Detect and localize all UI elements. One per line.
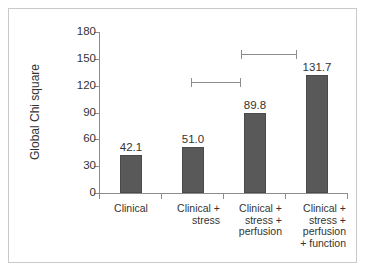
x-category-label-1-line-0: Clinical + (158, 203, 220, 215)
bracket-cap-right (296, 50, 297, 59)
x-tick-2 (223, 194, 224, 199)
y-tick-label-0: 0 (50, 187, 96, 198)
x-category-label-3: Clinical + stress + perfusion + function (282, 203, 346, 249)
y-tick-label-90: 90 (50, 107, 96, 118)
significance-bracket-lower (191, 78, 241, 87)
bracket-line (241, 54, 297, 55)
x-category-label-0: Clinical (100, 203, 162, 215)
x-tick-0 (99, 194, 100, 199)
x-tick-4 (347, 194, 348, 199)
bar-clinical (120, 155, 142, 193)
x-category-label-0-line-0: Clinical (100, 203, 162, 215)
y-tick-label-120: 120 (50, 80, 96, 91)
y-tick-label-150: 150 (50, 53, 96, 64)
x-category-label-2-line-0: Clinical + (220, 203, 282, 215)
y-tick-label-30: 30 (50, 160, 96, 171)
x-category-label-3-line-2: perfusion (282, 226, 346, 238)
x-category-label-2-line-2: perfusion (220, 226, 282, 238)
x-tick-1 (161, 194, 162, 199)
bracket-line (191, 82, 241, 83)
x-category-label-1-line-1: stress (158, 215, 220, 227)
bar-clinical-stress (182, 147, 204, 193)
bar-value-clinical-stress-perfusion: 89.8 (232, 99, 278, 111)
y-tick-label-180: 180 (50, 26, 96, 37)
bracket-cap-right (240, 78, 241, 87)
plot-area: Global Chi square 0 30 60 90 120 150 180… (0, 0, 368, 274)
x-tick-3 (285, 194, 286, 199)
y-axis-line (99, 32, 100, 194)
bar-clinical-stress-perfusion (244, 113, 266, 193)
chart-figure: Global Chi square 0 30 60 90 120 150 180… (0, 0, 368, 274)
x-category-label-1: Clinical + stress (158, 203, 220, 226)
y-tick-label-60: 60 (50, 133, 96, 144)
bar-value-clinical-stress-perfusion-function: 131.7 (292, 61, 342, 73)
bar-clinical-stress-perfusion-function (306, 75, 328, 193)
y-axis-title: Global Chi square (28, 52, 42, 172)
x-category-label-3-line-0: Clinical + (282, 203, 346, 215)
x-category-label-3-line-3: + function (282, 238, 346, 250)
significance-bracket-upper (241, 50, 297, 59)
bar-value-clinical: 42.1 (108, 141, 154, 153)
bar-value-clinical-stress: 51.0 (170, 133, 216, 145)
x-category-label-2: Clinical + stress + perfusion (220, 203, 282, 238)
